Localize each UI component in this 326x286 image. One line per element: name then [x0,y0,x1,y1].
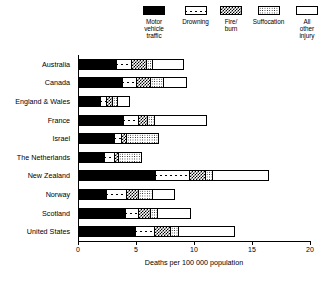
bar-segment[interactable] [154,227,171,236]
x-axis-title: Deaths per 100 000 population [78,258,310,267]
stacked-bar[interactable] [78,208,191,219]
bar-segment[interactable] [123,116,137,125]
bar-segment[interactable] [79,60,116,69]
stacked-bar[interactable] [78,170,269,181]
y-axis-label: United States [0,222,74,241]
bar-segment[interactable] [122,78,136,87]
bar-row [78,204,310,223]
bar-segment[interactable] [116,60,131,69]
bar-segment[interactable] [157,209,190,218]
bar-segment[interactable] [125,209,138,218]
bar-segment[interactable] [163,78,186,87]
x-tick-label: 15 [248,246,256,253]
bar-row [78,222,310,241]
x-tick-label: 10 [190,246,198,253]
bar-segment[interactable] [154,116,206,125]
bars-container [78,55,310,241]
stacked-bar[interactable] [78,59,184,70]
bar-segment[interactable] [79,153,104,162]
bar-segment[interactable] [205,171,213,180]
bar-row [78,148,310,167]
bar-row [78,111,310,130]
stacked-bar[interactable] [78,96,130,107]
bar-segment[interactable] [79,227,135,236]
bar-segment[interactable] [118,153,140,162]
bar-segment[interactable] [126,190,138,199]
stacked-bar[interactable] [78,189,175,200]
stacked-bar[interactable] [78,152,142,163]
bar-row [78,55,310,74]
stacked-bar[interactable] [78,115,207,126]
x-tick [78,241,79,245]
bar-segment[interactable] [106,190,126,199]
bar-segment[interactable] [138,209,150,218]
bar-segment[interactable] [117,97,129,106]
bar-row [78,167,310,186]
y-axis-category-labels: AustraliaCanadaEngland & WalesFranceIsra… [0,55,74,241]
y-axis-label: Norway [0,185,74,204]
bar-segment[interactable] [155,171,189,180]
bar-segment[interactable] [150,78,163,87]
x-tick [310,241,311,245]
y-axis-label: Israel [0,129,74,148]
y-axis-label: Canada [0,74,74,93]
y-axis-label: Australia [0,55,74,74]
bar-segment[interactable] [79,190,106,199]
bar-segment[interactable] [79,97,100,106]
y-axis-label: France [0,111,74,130]
bar-segment[interactable] [126,134,159,143]
bar-segment[interactable] [136,78,150,87]
bar-row [78,185,310,204]
bar-row [78,74,310,93]
stacked-bar[interactable] [78,133,159,144]
stacked-bar-chart: AustraliaCanadaEngland & WalesFranceIsra… [0,0,326,286]
bar-segment[interactable] [114,134,122,143]
bar-segment[interactable] [79,209,125,218]
x-tick [252,241,253,245]
y-axis-line [78,55,79,242]
bar-segment[interactable] [79,116,123,125]
bar-segment[interactable] [138,116,148,125]
x-tick-label: 5 [134,246,138,253]
bar-segment[interactable] [189,171,205,180]
stacked-bar[interactable] [78,77,187,88]
y-axis-label: The Netherlands [0,148,74,167]
bar-segment[interactable] [138,190,152,199]
x-tick [136,241,137,245]
bar-segment[interactable] [104,153,115,162]
bar-segment[interactable] [212,171,268,180]
y-axis-label: New Zealand [0,167,74,186]
bar-segment[interactable] [152,190,175,199]
bar-row [78,92,310,111]
bar-segment[interactable] [79,171,155,180]
bar-segment[interactable] [135,227,154,236]
bar-segment[interactable] [178,227,234,236]
bar-segment[interactable] [79,78,122,87]
y-axis-label: Scotland [0,204,74,223]
bar-row [78,129,310,148]
bar-segment[interactable] [152,60,183,69]
x-tick-label: 20 [306,246,314,253]
stacked-bar[interactable] [78,226,235,237]
y-axis-label: England & Wales [0,92,74,111]
bar-segment[interactable] [131,60,145,69]
bar-segment[interactable] [79,134,114,143]
x-tick [194,241,195,245]
x-tick-label: 0 [76,246,80,253]
bar-segment[interactable] [170,227,178,236]
